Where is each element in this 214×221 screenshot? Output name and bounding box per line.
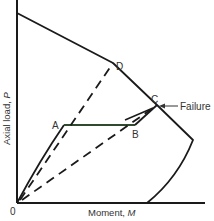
interaction-curve	[17, 13, 193, 203]
x-axis-label-text: Moment,	[88, 207, 128, 218]
y-axis-label: Axial load, P	[1, 92, 12, 145]
x-axis-label-var: M	[128, 207, 136, 218]
origin-label: 0	[10, 206, 16, 217]
y-axis-label-text: Axial load,	[1, 99, 12, 145]
point-label-b: B	[132, 129, 139, 140]
point-label-d: D	[116, 61, 123, 72]
interaction-diagram: D C A B Failure 0 Moment, M Axial load, …	[0, 0, 214, 221]
x-axis-label: Moment, M	[88, 207, 136, 218]
y-axis-label-var: P	[1, 92, 12, 99]
dashed-line-0-D	[20, 63, 113, 200]
load-path-0-A	[17, 125, 64, 203]
dashed-line-0-C	[22, 110, 150, 200]
point-label-c: C	[151, 94, 158, 105]
failure-label: Failure	[180, 101, 211, 112]
point-label-a: A	[52, 120, 59, 131]
